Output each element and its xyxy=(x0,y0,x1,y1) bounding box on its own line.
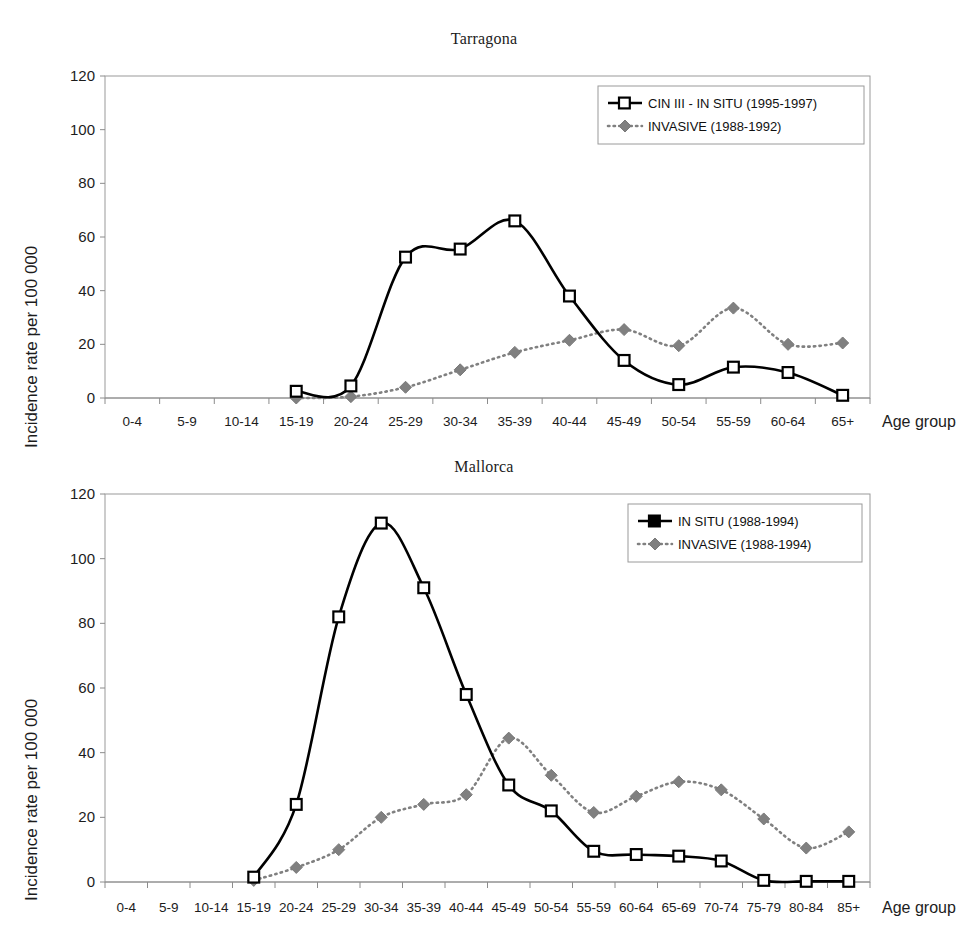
x-tick-label: 60-64 xyxy=(619,900,654,915)
data-point-insitu xyxy=(564,291,575,302)
data-point-insitu xyxy=(783,367,794,378)
data-point-insitu xyxy=(461,689,472,700)
x-tick-label: 25-29 xyxy=(321,900,356,915)
x-tick-label: 30-34 xyxy=(443,414,478,429)
x-tick-label: 0-4 xyxy=(123,414,143,429)
series-line-insitu xyxy=(254,523,849,882)
data-point-invasive xyxy=(290,861,302,873)
y-tick-label: 80 xyxy=(78,174,95,191)
x-tick-label: 10-14 xyxy=(224,414,259,429)
x-tick-label: 0-4 xyxy=(116,900,136,915)
data-point-insitu xyxy=(333,611,344,622)
x-tick-label: 30-34 xyxy=(364,900,399,915)
chart-svg-mallorca: 0204060801001200-45-910-1415-1920-2425-2… xyxy=(0,476,968,916)
data-point-insitu xyxy=(619,355,630,366)
data-point-insitu xyxy=(248,872,259,883)
x-tick-label: 45-49 xyxy=(491,900,526,915)
x-tick-label: 70-74 xyxy=(704,900,739,915)
x-tick-label: 45-49 xyxy=(607,414,642,429)
x-axis-caption: Age group xyxy=(882,899,956,916)
data-point-insitu xyxy=(716,856,727,867)
data-point-invasive xyxy=(460,789,472,801)
x-tick-label: 65+ xyxy=(831,414,854,429)
x-tick-label: 5-9 xyxy=(159,900,179,915)
data-point-invasive xyxy=(418,798,430,810)
data-point-insitu xyxy=(837,390,848,401)
chart-legend: CIN III - IN SITU (1995-1997)INVASIVE (1… xyxy=(598,86,864,144)
data-point-insitu xyxy=(843,876,854,887)
legend-label-insitu: IN SITU (1988-1994) xyxy=(678,514,799,529)
data-point-invasive xyxy=(673,776,685,788)
data-point-invasive xyxy=(782,338,794,350)
data-point-invasive xyxy=(375,811,387,823)
x-tick-label: 20-24 xyxy=(334,414,369,429)
data-point-insitu xyxy=(345,381,356,392)
chart-plot-area-mallorca: Incidence rate per 100 000 0204060801001… xyxy=(0,476,968,916)
y-tick-label: 20 xyxy=(78,335,95,352)
y-tick-label: 40 xyxy=(78,282,95,299)
data-point-invasive xyxy=(588,806,600,818)
data-point-insitu xyxy=(455,244,466,255)
x-tick-label: 15-19 xyxy=(236,900,271,915)
x-tick-label: 40-44 xyxy=(552,414,587,429)
y-tick-label: 60 xyxy=(78,679,95,696)
data-point-invasive xyxy=(618,324,630,336)
x-tick-label: 10-14 xyxy=(194,900,229,915)
y-tick-label: 80 xyxy=(78,614,95,631)
x-tick-label: 55-59 xyxy=(716,414,751,429)
x-tick-label: 85+ xyxy=(837,900,860,915)
x-tick-label: 50-54 xyxy=(534,900,569,915)
data-point-insitu xyxy=(631,849,642,860)
y-tick-label: 120 xyxy=(70,67,95,84)
y-tick-label: 40 xyxy=(78,744,95,761)
chart-plot-area-tarragona: Incidence rate per 100 000 0204060801001… xyxy=(0,48,968,443)
data-point-invasive xyxy=(843,826,855,838)
data-point-invasive xyxy=(800,842,812,854)
data-point-insitu xyxy=(673,851,684,862)
data-point-insitu xyxy=(728,362,739,373)
x-axis-caption: Age group xyxy=(882,413,956,430)
data-point-invasive xyxy=(563,334,575,346)
y-tick-label: 20 xyxy=(78,808,95,825)
data-point-insitu xyxy=(588,846,599,857)
x-tick-label: 25-29 xyxy=(388,414,423,429)
legend-label-invasive: INVASIVE (1988-1994) xyxy=(678,537,811,552)
y-tick-label: 100 xyxy=(70,550,95,567)
data-point-insitu xyxy=(291,386,302,397)
chart-legend: IN SITU (1988-1994)INVASIVE (1988-1994) xyxy=(628,504,862,562)
data-point-insitu xyxy=(758,875,769,886)
x-tick-label: 15-19 xyxy=(279,414,314,429)
chart-title-mallorca: Mallorca xyxy=(0,455,968,476)
y-tick-label: 120 xyxy=(70,485,95,502)
data-point-invasive xyxy=(715,784,727,796)
chart-figure-tarragona: Tarragona Incidence rate per 100 000 020… xyxy=(0,0,968,455)
y-tick-label: 0 xyxy=(87,873,95,890)
y-tick-label: 60 xyxy=(78,228,95,245)
chart-svg-tarragona: 0204060801001200-45-910-1415-1920-2425-2… xyxy=(0,48,968,443)
x-tick-label: 55-59 xyxy=(576,900,611,915)
data-point-invasive xyxy=(630,790,642,802)
series-line-insitu xyxy=(296,220,842,398)
data-point-invasive xyxy=(509,346,521,358)
x-tick-label: 65-69 xyxy=(661,900,696,915)
data-point-insitu xyxy=(503,780,514,791)
data-point-invasive xyxy=(837,337,849,349)
x-tick-label: 40-44 xyxy=(449,900,484,915)
x-tick-label: 35-39 xyxy=(498,414,533,429)
data-point-insitu xyxy=(509,216,520,227)
data-point-insitu xyxy=(801,876,812,887)
x-tick-label: 50-54 xyxy=(661,414,696,429)
data-point-invasive xyxy=(503,732,515,744)
data-point-insitu xyxy=(673,379,684,390)
x-tick-label: 60-64 xyxy=(771,414,806,429)
x-tick-label: 20-24 xyxy=(279,900,314,915)
data-point-invasive xyxy=(454,364,466,376)
data-point-insitu xyxy=(400,252,411,263)
chart-figure-mallorca: Mallorca Incidence rate per 100 000 0204… xyxy=(0,455,968,925)
x-tick-label: 80-84 xyxy=(789,900,824,915)
data-point-invasive xyxy=(345,391,357,403)
y-tick-label: 0 xyxy=(87,389,95,406)
data-point-invasive xyxy=(673,340,685,352)
y-tick-label: 100 xyxy=(70,121,95,138)
data-point-insitu xyxy=(376,518,387,529)
